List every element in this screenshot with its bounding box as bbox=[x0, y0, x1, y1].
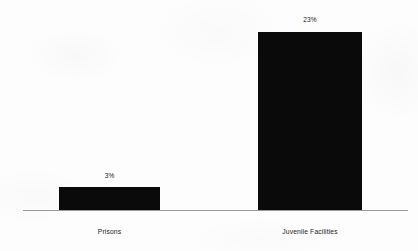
bar-juvenile-facilities[interactable] bbox=[258, 32, 362, 210]
plot-area: 3% 23% Prisons Juvenile Facilities bbox=[0, 0, 418, 251]
x-axis-tick-label-prisons: Prisons bbox=[64, 227, 155, 237]
bar-prisons[interactable] bbox=[59, 187, 160, 210]
x-axis-tick-label-juvenile-facilities: Juvenile Facilities bbox=[256, 227, 364, 237]
x-axis-line bbox=[23, 210, 408, 211]
bar-value-label-juvenile-facilities: 23% bbox=[264, 15, 356, 24]
bar-chart: 3% 23% Prisons Juvenile Facilities bbox=[0, 0, 418, 251]
bar-value-label-prisons: 3% bbox=[65, 171, 154, 180]
